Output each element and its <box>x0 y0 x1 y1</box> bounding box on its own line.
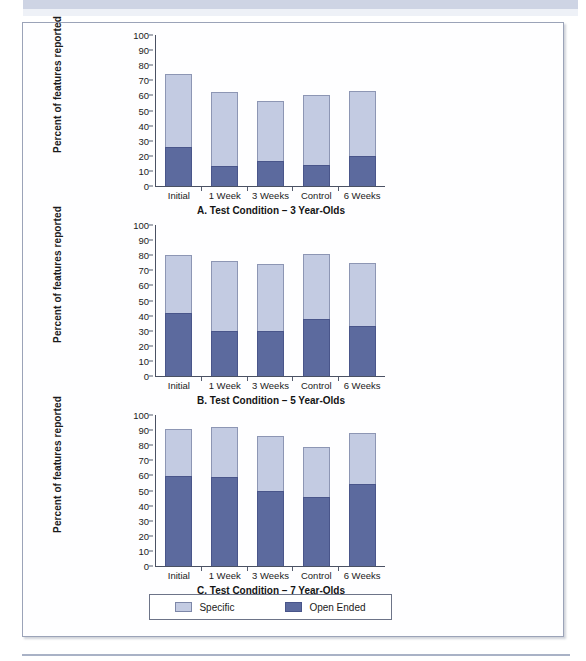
y-tick-mark <box>149 566 153 567</box>
stacked-bar[interactable] <box>211 427 238 566</box>
bar-slot <box>202 225 248 376</box>
y-tick-mark <box>149 186 153 187</box>
y-tick-label: 50 <box>127 485 149 496</box>
y-tick-label: 100 <box>127 220 149 231</box>
bar-slot <box>293 35 339 186</box>
y-tick-label: 60 <box>127 90 149 101</box>
y-tick-label: 90 <box>127 425 149 436</box>
bar-segment-specific <box>211 261 238 330</box>
y-tick-label: 20 <box>127 340 149 351</box>
legend-label-open-ended: Open Ended <box>309 602 365 613</box>
bar-slot <box>293 225 339 376</box>
y-tick-mark <box>149 490 153 491</box>
page-top-band <box>23 0 578 9</box>
bar-slot <box>156 415 202 566</box>
stacked-bar[interactable] <box>303 95 330 186</box>
stacked-bar[interactable] <box>257 264 284 376</box>
bar-segment-specific <box>165 429 192 476</box>
y-tick-mark <box>149 475 153 476</box>
bar-segment-open-ended <box>211 477 238 566</box>
stacked-bar[interactable] <box>211 261 238 376</box>
y-tick-label: 10 <box>127 165 149 176</box>
x-axis-labels-c: Initial1 Week3 WeeksControl6 Weeks <box>156 570 385 581</box>
y-tick-mark <box>149 430 153 431</box>
y-tick-label: 30 <box>127 135 149 146</box>
bar-segment-specific <box>257 101 284 161</box>
y-tick-label: 100 <box>127 410 149 421</box>
bar-segment-open-ended <box>257 161 284 186</box>
bar-slot <box>202 415 248 566</box>
x-tick-label: 6 Weeks <box>339 380 385 391</box>
y-tick-mark <box>149 95 153 96</box>
bar-slot <box>339 35 385 186</box>
stacked-bar[interactable] <box>165 74 192 186</box>
bar-segment-open-ended <box>165 476 192 566</box>
y-tick-label: 30 <box>127 325 149 336</box>
bar-segment-open-ended <box>211 331 238 376</box>
bar-segment-open-ended <box>303 497 330 566</box>
legend-item-specific: Specific <box>175 602 234 613</box>
y-tick-mark <box>149 505 153 506</box>
x-tick-label: Initial <box>156 570 202 581</box>
stacked-bar[interactable] <box>257 101 284 186</box>
y-axis-label-c: Percent of features reported <box>52 385 63 545</box>
bar-segment-open-ended <box>303 165 330 186</box>
y-tick-mark <box>149 50 153 51</box>
chart-panel-b: Percent of features reported 01020304050… <box>23 219 565 415</box>
bar-slot <box>156 225 202 376</box>
stacked-bar[interactable] <box>257 436 284 566</box>
stacked-bar[interactable] <box>303 254 330 376</box>
y-tick-mark <box>149 170 153 171</box>
bar-segment-specific <box>303 254 330 318</box>
stacked-bar[interactable] <box>349 433 376 566</box>
bar-segment-open-ended <box>349 484 376 566</box>
bar-slot <box>293 415 339 566</box>
bar-segment-specific <box>211 92 238 167</box>
bar-segment-open-ended <box>349 156 376 186</box>
y-tick-label: 40 <box>127 310 149 321</box>
stacked-bar[interactable] <box>349 91 376 186</box>
y-tick-label: 10 <box>127 355 149 366</box>
stacked-bar[interactable] <box>211 92 238 186</box>
square-swatch-icon <box>285 602 302 612</box>
bar-slot <box>248 415 294 566</box>
bar-segment-specific <box>349 91 376 156</box>
bar-segment-open-ended <box>303 319 330 376</box>
x-axis-labels-b: Initial1 Week3 WeeksControl6 Weeks <box>156 380 385 391</box>
x-tick-label: Initial <box>156 190 202 201</box>
chart-legend: Specific Open Ended <box>149 594 392 620</box>
y-tick-label: 50 <box>127 295 149 306</box>
y-tick-mark <box>149 155 153 156</box>
stacked-bar[interactable] <box>165 255 192 376</box>
plot-area-b: 0102030405060708090100 <box>155 225 385 377</box>
legend-label-specific: Specific <box>199 602 234 613</box>
y-tick-label: 0 <box>127 181 149 192</box>
bar-segment-specific <box>165 255 192 313</box>
y-tick-label: 80 <box>127 250 149 261</box>
stacked-bar[interactable] <box>349 263 376 376</box>
y-tick-mark <box>149 415 153 416</box>
bar-slot <box>202 35 248 186</box>
stacked-bar[interactable] <box>303 447 330 566</box>
y-tick-mark <box>149 110 153 111</box>
bar-group-a <box>156 35 385 186</box>
square-swatch-icon <box>175 602 192 612</box>
y-tick-label: 70 <box>127 265 149 276</box>
bar-segment-open-ended <box>257 331 284 376</box>
y-tick-label: 60 <box>127 280 149 291</box>
bar-segment-specific <box>257 264 284 330</box>
bar-segment-open-ended <box>211 166 238 186</box>
x-tick-label: Control <box>293 380 339 391</box>
y-tick-mark <box>149 330 153 331</box>
y-tick-label: 20 <box>127 530 149 541</box>
bar-slot <box>339 415 385 566</box>
stacked-bar[interactable] <box>165 429 192 566</box>
x-tick-label: Control <box>293 190 339 201</box>
y-tick-label: 70 <box>127 75 149 86</box>
x-tick-label: 1 Week <box>202 380 248 391</box>
bar-segment-open-ended <box>349 326 376 376</box>
x-axis-labels-a: Initial1 Week3 WeeksControl6 Weeks <box>156 190 385 201</box>
x-tick-label: 6 Weeks <box>339 570 385 581</box>
y-tick-mark <box>149 550 153 551</box>
y-tick-label: 80 <box>127 440 149 451</box>
